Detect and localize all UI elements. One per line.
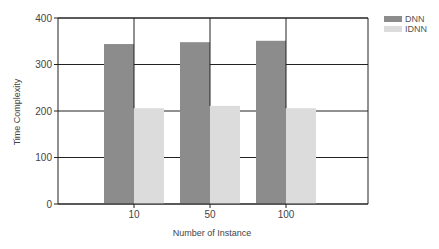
bar-idnn-100 bbox=[286, 108, 316, 204]
bar-idnn-10 bbox=[134, 108, 164, 204]
y-tick-label: 100 bbox=[35, 152, 52, 163]
x-axis-title: Number of Instance bbox=[173, 228, 252, 238]
legend-swatch-idnn bbox=[384, 26, 402, 32]
y-tick-label: 300 bbox=[35, 59, 52, 70]
x-tick-label: 50 bbox=[204, 209, 216, 220]
legend-label-idnn: IDNN bbox=[405, 24, 427, 34]
bar-chart: 0100200300400 1050100 Time Complexity Nu… bbox=[0, 0, 439, 249]
x-tick-label: 100 bbox=[278, 209, 295, 220]
legend-swatch-dnn bbox=[384, 16, 402, 22]
legend: DNNIDNN bbox=[384, 14, 427, 34]
bar-dnn-10 bbox=[104, 44, 134, 204]
x-tick-label: 10 bbox=[128, 209, 140, 220]
y-axis-title: Time Complexity bbox=[12, 78, 22, 145]
y-tick-label: 0 bbox=[46, 199, 52, 210]
y-tick-label: 400 bbox=[35, 13, 52, 24]
y-axis-ticks: 0100200300400 bbox=[35, 13, 58, 210]
x-axis-ticks: 1050100 bbox=[128, 204, 294, 220]
bar-idnn-50 bbox=[210, 106, 240, 204]
legend-label-dnn: DNN bbox=[405, 14, 425, 24]
bar-dnn-50 bbox=[180, 42, 210, 204]
y-tick-label: 200 bbox=[35, 106, 52, 117]
bar-dnn-100 bbox=[256, 41, 286, 204]
